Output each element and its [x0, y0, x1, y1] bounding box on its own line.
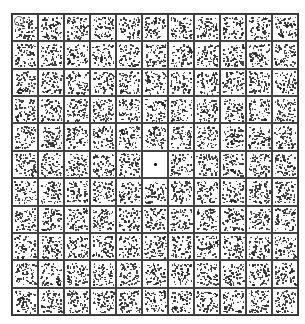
stippled-cell	[142, 233, 168, 260]
stippled-cell	[272, 69, 298, 96]
stippled-cell	[90, 14, 116, 41]
corner-circle-mark	[14, 16, 24, 26]
stippled-cell	[194, 151, 220, 178]
stippled-cell	[168, 96, 194, 123]
stippled-cell	[246, 123, 272, 150]
stippled-cell	[194, 96, 220, 123]
stippled-cell	[116, 233, 142, 260]
stippled-cell	[220, 151, 246, 178]
stippled-cell	[12, 14, 38, 41]
stippled-cell	[220, 14, 246, 41]
stippled-cell	[116, 178, 142, 205]
stippled-cell	[38, 206, 64, 233]
stippled-cell	[272, 123, 298, 150]
stippled-cell	[12, 260, 38, 287]
stippled-cell	[142, 206, 168, 233]
stippled-cell	[168, 41, 194, 68]
stippled-cell	[64, 233, 90, 260]
stippled-cell	[12, 123, 38, 150]
blank-center-cell	[142, 151, 168, 178]
stippled-cell	[90, 151, 116, 178]
stippled-cell	[142, 178, 168, 205]
stippled-cell	[38, 14, 64, 41]
stippled-cell	[38, 178, 64, 205]
stippled-cell	[246, 14, 272, 41]
stippled-cell	[142, 96, 168, 123]
stippled-cell	[12, 151, 38, 178]
stippled-cell	[142, 14, 168, 41]
stippled-cell	[90, 233, 116, 260]
stippled-cell	[64, 178, 90, 205]
stippled-cell	[142, 69, 168, 96]
stippled-cell	[246, 151, 272, 178]
stippled-cell	[272, 260, 298, 287]
stippled-cell	[168, 233, 194, 260]
stippled-cell	[142, 260, 168, 287]
stippled-cell	[116, 260, 142, 287]
stippled-cell	[12, 178, 38, 205]
stippled-cell	[90, 206, 116, 233]
stippled-cell	[12, 96, 38, 123]
stippled-cell	[220, 96, 246, 123]
stippled-cell	[220, 288, 246, 315]
stippled-cell	[220, 206, 246, 233]
stippled-cell	[220, 41, 246, 68]
stippled-cell	[12, 233, 38, 260]
stippled-cell	[90, 69, 116, 96]
stippled-cell	[272, 41, 298, 68]
stippled-cell	[116, 288, 142, 315]
stippled-cell	[194, 233, 220, 260]
stippled-cell	[116, 96, 142, 123]
stippled-cell	[90, 41, 116, 68]
stippled-cell	[272, 96, 298, 123]
stipple-grid	[11, 13, 299, 316]
stippled-cell	[64, 123, 90, 150]
stippled-cell	[90, 260, 116, 287]
stippled-cell	[64, 260, 90, 287]
stippled-cell	[116, 14, 142, 41]
stippled-cell	[38, 69, 64, 96]
stippled-cell	[272, 233, 298, 260]
stippled-cell	[272, 14, 298, 41]
stippled-cell	[220, 123, 246, 150]
stippled-cell	[38, 96, 64, 123]
stippled-cell	[272, 206, 298, 233]
stippled-cell	[116, 41, 142, 68]
stippled-cell	[220, 69, 246, 96]
stippled-cell	[194, 260, 220, 287]
stippled-cell	[38, 233, 64, 260]
stippled-cell	[142, 288, 168, 315]
stippled-cell	[64, 151, 90, 178]
stippled-cell	[168, 14, 194, 41]
stippled-cell	[116, 206, 142, 233]
stippled-cell	[168, 260, 194, 287]
stippled-cell	[246, 178, 272, 205]
stippled-cell	[64, 69, 90, 96]
stippled-cell	[64, 288, 90, 315]
stippled-cell	[90, 96, 116, 123]
stippled-cell	[246, 233, 272, 260]
stippled-cell	[12, 69, 38, 96]
stippled-cell	[194, 178, 220, 205]
stippled-cell	[142, 123, 168, 150]
stippled-cell	[64, 206, 90, 233]
stippled-cell	[272, 178, 298, 205]
stippled-cell	[90, 178, 116, 205]
stippled-cell	[220, 178, 246, 205]
stippled-cell	[194, 123, 220, 150]
stippled-cell	[168, 206, 194, 233]
stippled-cell	[38, 41, 64, 68]
stippled-cell	[194, 14, 220, 41]
stippled-cell	[272, 288, 298, 315]
stippled-cell	[90, 123, 116, 150]
stippled-cell	[194, 206, 220, 233]
stippled-cell	[116, 69, 142, 96]
stippled-cell	[168, 151, 194, 178]
stippled-cell	[168, 288, 194, 315]
stippled-cell	[64, 41, 90, 68]
fixation-dot	[154, 163, 157, 166]
stippled-cell	[246, 41, 272, 68]
stippled-cell	[194, 69, 220, 96]
stippled-cell	[194, 288, 220, 315]
stippled-cell	[38, 151, 64, 178]
